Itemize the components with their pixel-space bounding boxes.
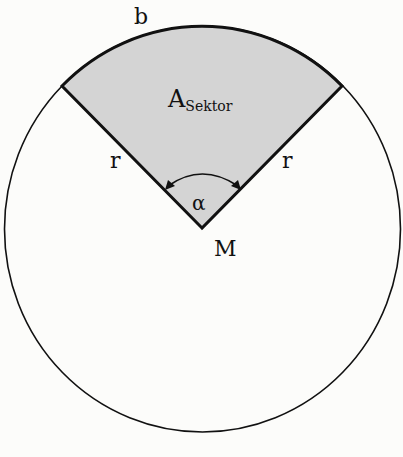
sector-diagram: b ASektor r r α M — [0, 0, 403, 457]
radius-label-left: r — [110, 148, 121, 173]
angle-label: α — [192, 191, 206, 215]
center-label: M — [214, 236, 237, 261]
arc-label: b — [134, 4, 148, 29]
radius-label-right: r — [282, 148, 293, 173]
area-label-main: A — [167, 85, 186, 113]
area-label-sub: Sektor — [185, 98, 232, 114]
